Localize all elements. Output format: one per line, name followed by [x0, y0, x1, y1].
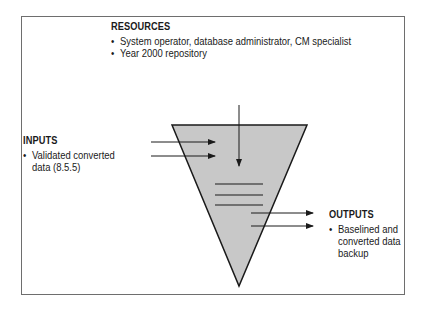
resources-item: System operator, database administrator,…	[111, 35, 381, 47]
inputs-list: Validated converted data (8.5.5)	[23, 149, 153, 173]
outputs-block: OUTPUTS Baselined and converted data bac…	[329, 208, 419, 259]
resources-heading: RESOURCES	[111, 20, 375, 32]
resources-block: RESOURCES System operator, database admi…	[111, 20, 411, 59]
outputs-item: Baselined and converted data backup	[329, 223, 410, 259]
inputs-heading: INPUTS	[23, 134, 137, 146]
outputs-list: Baselined and converted data backup	[329, 223, 419, 259]
inputs-block: INPUTS Validated converted data (8.5.5)	[23, 134, 153, 173]
inputs-item: Validated converted data (8.5.5)	[23, 149, 140, 173]
resources-item: Year 2000 repository	[111, 47, 381, 59]
outputs-heading: OUTPUTS	[329, 208, 408, 220]
resources-list: System operator, database administrator,…	[111, 35, 411, 59]
